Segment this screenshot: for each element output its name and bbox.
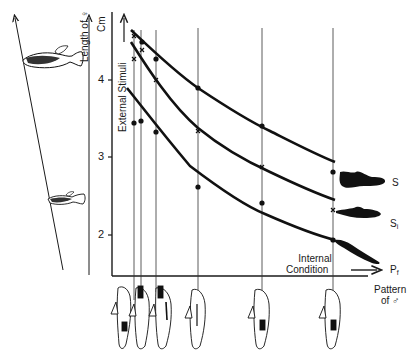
male-fish-6 [319, 289, 340, 348]
curve-label-s: S [392, 177, 399, 188]
large-female-fish [23, 46, 83, 68]
male-pattern-fish-icons [111, 286, 340, 349]
y-axis-unit: Cm [96, 16, 107, 32]
male-fish-5 [248, 289, 269, 348]
curve-s [131, 30, 335, 162]
internal-condition-label-line2: Condition [286, 264, 328, 275]
y-axis-label: Length of ♀ [79, 10, 90, 62]
data-points [131, 39, 335, 242]
small-female-fish [48, 192, 85, 205]
y-tick-2: 2 [98, 228, 104, 240]
curve-pf [127, 88, 335, 240]
pattern-si-silhouette [336, 207, 381, 218]
male-fish-3 [149, 286, 171, 349]
curve-label-si: Si [390, 218, 398, 230]
male-fish-1 [111, 287, 131, 349]
y-tick-3: 3 [98, 150, 104, 162]
figure: Length of ♀ Cm 4 3 2 External Stimuli In… [0, 0, 409, 360]
curve-si [131, 42, 335, 200]
pattern-label-line2: of ♂ [381, 295, 400, 306]
male-fish-4 [185, 289, 205, 348]
pattern-s-silhouette [340, 171, 386, 187]
internal-condition-label-line1: Internal [285, 253, 345, 264]
y-tick-4: 4 [98, 73, 104, 85]
curve-label-pf: Pf [390, 264, 399, 276]
pattern-label-line1: Pattern [374, 284, 406, 295]
external-stimuli-label: External Stimuli [117, 63, 128, 132]
diagram-canvas [0, 0, 409, 360]
y-axis [108, 12, 112, 276]
male-fish-2 [129, 286, 149, 349]
